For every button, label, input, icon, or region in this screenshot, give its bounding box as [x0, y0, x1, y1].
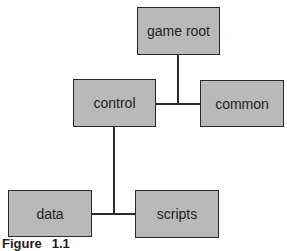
connector-data-scripts	[91, 213, 136, 215]
caption-number: 1.1	[52, 236, 70, 251]
node-label: control	[93, 95, 135, 111]
figure-caption: Figure1.1	[2, 236, 80, 251]
node-label: data	[36, 206, 63, 222]
connector-control-common	[155, 103, 200, 105]
node-control: control	[73, 79, 156, 127]
caption-label: Figure	[2, 236, 42, 251]
node-game-root: game root	[137, 7, 220, 55]
connector-control-vertical	[113, 126, 115, 214]
node-label: scripts	[157, 206, 197, 222]
node-label: common	[215, 96, 269, 112]
node-data: data	[8, 190, 92, 237]
connector-root-vertical	[177, 54, 179, 104]
node-label: game root	[147, 23, 210, 39]
node-common: common	[200, 80, 284, 127]
node-scripts: scripts	[135, 190, 219, 238]
